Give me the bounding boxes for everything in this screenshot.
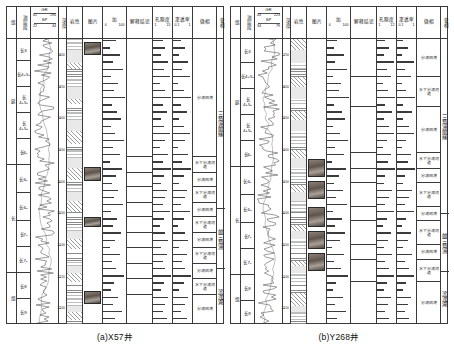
value-bar xyxy=(153,90,165,91)
value-bar xyxy=(103,111,117,112)
zone-cell: 长7₂ xyxy=(241,249,254,275)
gr-max: 223 xyxy=(274,14,280,18)
value-bar xyxy=(397,197,409,198)
lithology-band xyxy=(291,77,306,87)
microfacies-row: 水下分流河道 xyxy=(193,157,216,173)
lithology-band xyxy=(67,158,82,168)
gr-min: 61 xyxy=(33,14,37,18)
lithology-band xyxy=(67,111,82,120)
value-bar xyxy=(153,197,165,198)
depth-label: 2100 xyxy=(57,243,65,247)
header-interp-header: 解释结论 xyxy=(127,7,153,38)
microfacies-row: 水下分流河道 xyxy=(193,217,216,233)
subfacies-header-label: 亚相 xyxy=(219,18,224,28)
header-photo-header: 图片 xyxy=(83,7,103,38)
perm-header-min: 0.1 xyxy=(175,24,180,28)
interpretation-rows xyxy=(351,39,376,324)
microfacies-row: 分流间湾 xyxy=(417,245,440,260)
interpretation-row xyxy=(127,248,152,264)
value-bar xyxy=(397,275,414,276)
value-bar xyxy=(397,211,414,212)
zone-label: 长4+5₂ xyxy=(241,96,254,107)
value-bar xyxy=(327,183,334,184)
lithology-band xyxy=(291,104,306,111)
value-bar xyxy=(103,304,113,305)
group-label: 延 xyxy=(9,99,15,104)
group-cell: 长 xyxy=(231,167,240,275)
value-bar xyxy=(173,61,188,62)
value-bar xyxy=(173,204,181,205)
value-bar xyxy=(153,111,167,112)
interpretation-row xyxy=(127,264,152,279)
zone-label: 长3 xyxy=(244,48,250,54)
zone-label: 长6₂ xyxy=(243,178,251,184)
value-bar xyxy=(153,61,168,62)
gr-curve-header-label: 加 xyxy=(336,18,341,23)
value-bar xyxy=(397,247,403,248)
zone-label: 长6₁ xyxy=(244,151,252,157)
value-bar xyxy=(173,118,179,119)
lithology-header-label: 岩性 xyxy=(70,20,80,25)
value-bar xyxy=(173,268,185,269)
value-bar xyxy=(377,61,394,62)
interpretation-row xyxy=(351,169,376,183)
subfacies-label: 滨浅湖 xyxy=(217,289,225,304)
lithology-band xyxy=(291,320,306,324)
lithology-band xyxy=(291,239,306,249)
zone-cell: 长4+5₂ xyxy=(17,87,30,113)
microfacies-row: 分流间湾 xyxy=(193,39,216,157)
value-bar xyxy=(327,69,347,70)
zone-stack: 长3长4+5₁长4+5₂长4+5₃长6₁长6₂长6₃长7₁长7₂长8长9 xyxy=(17,39,30,324)
core-photos xyxy=(83,39,102,324)
value-bar xyxy=(153,140,165,141)
value-bar xyxy=(397,240,408,241)
lithology-band xyxy=(67,239,82,249)
group-cell: 组 xyxy=(7,273,16,324)
microfacies-row: 分流间湾 xyxy=(417,107,440,153)
value-bar xyxy=(153,318,167,319)
header-curve-header: GR61190SP2244 xyxy=(31,7,59,38)
curve-canvas xyxy=(31,39,58,324)
value-bar xyxy=(103,268,116,269)
curve-range: 2244 xyxy=(33,25,56,29)
zone-label: 长6₂ xyxy=(19,176,27,182)
value-bar xyxy=(173,90,184,91)
value-bar xyxy=(397,282,406,283)
depth-ticks: 175018001850190019502000205021002150 xyxy=(283,39,290,324)
value-bar xyxy=(153,83,160,84)
subfacies-stack: 三角洲前缘前三角洲滨浅湖 xyxy=(441,39,449,324)
value-bar xyxy=(103,297,118,298)
subfacies-label: 三角洲前缘 xyxy=(217,111,225,136)
value-bar xyxy=(103,83,118,84)
subfacies-cell: 滨浅湖 xyxy=(441,272,449,324)
value-bar xyxy=(173,225,178,226)
photo-header-label: 图片 xyxy=(312,20,322,25)
zone-label: 长8 xyxy=(20,283,26,289)
value-bar xyxy=(173,304,185,305)
microfacies-header-label: 微相 xyxy=(200,20,210,25)
value-bar xyxy=(327,211,333,212)
value-bar xyxy=(153,133,170,134)
depth-label: 2200 xyxy=(57,306,65,310)
value-bar xyxy=(173,140,185,141)
core-photo xyxy=(308,159,325,177)
value-bar xyxy=(397,133,414,134)
curve-header-curve-sp-name: SP xyxy=(266,18,272,22)
value-bar xyxy=(377,254,392,255)
value-bar xyxy=(153,175,164,176)
interp-header-label: 解释结论 xyxy=(354,20,374,25)
zone-cell: 长4+5₂ xyxy=(241,89,254,115)
value-bar xyxy=(377,247,384,248)
zone-label: 长6₁ xyxy=(20,149,28,155)
zone-cell: 长6₂ xyxy=(17,165,30,193)
porosity-header-range: 112 xyxy=(379,24,395,28)
interpretation-row xyxy=(127,203,152,217)
depth-label: 1800 xyxy=(281,85,289,89)
sp-min: 34 xyxy=(257,25,261,29)
microfacies-row: 分流间湾 xyxy=(193,295,216,324)
value-bar xyxy=(397,69,405,70)
lithology-band xyxy=(67,212,82,225)
lithology-band xyxy=(291,111,306,120)
value-bar xyxy=(153,126,164,127)
value-bar xyxy=(377,161,388,162)
